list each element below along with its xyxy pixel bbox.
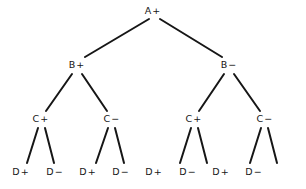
tree-node-b2: B− xyxy=(221,60,238,70)
tree-node-a: A+ xyxy=(145,6,162,16)
tree-diagram: A+B+B−C+C−C+C−D+D−D+D−D+D−D+D− xyxy=(0,0,306,189)
tree-node-d2: D− xyxy=(46,167,63,177)
tree-node-d5: D+ xyxy=(145,167,162,177)
tree-nodes-layer: A+B+B−C+C−C+C−D+D−D+D−D+D−D+D− xyxy=(0,0,306,189)
tree-node-d6: D− xyxy=(179,167,196,177)
tree-node-c1: C+ xyxy=(33,114,50,124)
tree-node-d8: D− xyxy=(245,167,262,177)
tree-node-c4: C− xyxy=(257,114,274,124)
tree-node-d3: D+ xyxy=(79,167,96,177)
tree-node-c2: C− xyxy=(104,114,121,124)
tree-node-b1: B+ xyxy=(69,60,86,70)
tree-node-c3: C+ xyxy=(186,114,203,124)
tree-node-d4: D− xyxy=(112,167,129,177)
tree-node-d7: D+ xyxy=(212,167,229,177)
tree-node-d1: D+ xyxy=(12,167,29,177)
